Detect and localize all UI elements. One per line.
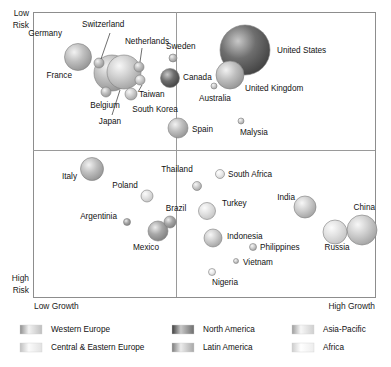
- bubble-united-kingdom[interactable]: [216, 61, 244, 89]
- bubble-label-canada: Canada: [183, 73, 212, 82]
- bubble-belgium[interactable]: [101, 87, 111, 97]
- bubble-label-turkey: Turkey: [222, 199, 248, 208]
- bubble-label-sweden: Sweden: [166, 42, 196, 51]
- bubble-poland[interactable]: [141, 190, 153, 202]
- bubble-taiwan[interactable]: [135, 75, 145, 85]
- legend-item-latin-america[interactable]: Latin America: [172, 343, 253, 352]
- bubble-south-korea[interactable]: [125, 88, 137, 100]
- bubble-russia[interactable]: [323, 220, 347, 244]
- legend-label-latin-america: Latin America: [203, 343, 253, 352]
- axis-label-high-risk-line2: Risk: [13, 285, 30, 295]
- bubble-label-south-korea: South Korea: [132, 105, 178, 114]
- bubble-label-belgium: Belgium: [90, 101, 120, 110]
- bubble-malysia[interactable]: [238, 118, 244, 124]
- leader-line-netherlands: [140, 48, 142, 62]
- bubble-label-argentinia: Argentinia: [80, 212, 117, 221]
- bubble-label-italy: Italy: [62, 172, 78, 181]
- bubble-label-nigeria: Nigeria: [212, 278, 238, 287]
- bubble-label-united-states: United States: [277, 46, 326, 55]
- bubble-label-japan: Japan: [99, 117, 122, 126]
- bubble-south-africa[interactable]: [216, 170, 225, 179]
- bubble-argentinia[interactable]: [124, 219, 131, 226]
- axis-label-low-growth: Low Growth: [34, 301, 79, 311]
- legend-label-north-america: North America: [203, 325, 255, 334]
- bubble-label-vietnam: Vietnam: [243, 258, 273, 267]
- bubble-label-switzerland: Switzerland: [82, 20, 125, 29]
- bubble-label-germany: Germany: [28, 29, 63, 38]
- legend-swatch-asia-pacific: [292, 325, 314, 334]
- legend-swatch-central-eastern-europe: [20, 343, 42, 352]
- legend-label-asia-pacific: Asia-Pacific: [323, 325, 366, 334]
- bubble-label-china: China: [354, 203, 376, 212]
- bubble-vietnam[interactable]: [234, 259, 239, 264]
- risk-growth-bubble-chart: GermanySwitzerlandFranceJapanNetherlands…: [0, 0, 391, 367]
- bubble-label-brazil: Brazil: [166, 204, 187, 213]
- bubble-label-thailand: Thailand: [161, 165, 193, 174]
- bubble-india[interactable]: [294, 196, 316, 218]
- bubble-label-philippines: Philippines: [260, 243, 300, 252]
- bubble-label-taiwan: Taiwan: [139, 90, 165, 99]
- bubble-philippines[interactable]: [250, 244, 257, 251]
- axis-label-low-risk-line1: Low: [14, 8, 30, 18]
- legend-item-north-america[interactable]: North America: [172, 325, 255, 334]
- axis-label-low-risk-line2: Risk: [13, 20, 30, 30]
- legend-swatch-north-america: [172, 325, 194, 334]
- bubble-australia[interactable]: [211, 83, 217, 89]
- bubble-spain[interactable]: [168, 118, 188, 138]
- bubble-sweden[interactable]: [169, 54, 177, 62]
- bubble-label-united-kingdom: United Kingdom: [245, 84, 303, 93]
- bubble-thailand[interactable]: [193, 182, 202, 191]
- legend-item-asia-pacific[interactable]: Asia-Pacific: [292, 325, 366, 334]
- bubble-germany[interactable]: [65, 44, 92, 71]
- legend-item-western-europe[interactable]: Western Europe: [20, 325, 110, 334]
- bubble-label-mexico: Mexico: [133, 243, 159, 252]
- legend-label-central-eastern-europe: Central & Eastern Europe: [51, 343, 145, 352]
- axis-label-high-risk-line1: High: [12, 273, 30, 283]
- legend-swatch-western-europe: [20, 325, 42, 334]
- legend-label-africa: Africa: [323, 343, 344, 352]
- bubble-nigeria[interactable]: [209, 269, 216, 276]
- bubble-label-spain: Spain: [192, 125, 213, 134]
- bubble-netherlands[interactable]: [134, 62, 144, 72]
- bubble-label-russia: Russia: [324, 243, 349, 252]
- legend-label-western-europe: Western Europe: [51, 325, 110, 334]
- bubble-label-australia: Australia: [199, 94, 231, 103]
- legend-swatch-latin-america: [172, 343, 194, 352]
- bubble-label-malysia: Malysia: [240, 128, 268, 137]
- bubble-indonesia[interactable]: [204, 229, 222, 247]
- bubble-label-south-africa: South Africa: [228, 170, 273, 179]
- bubble-italy[interactable]: [81, 158, 104, 181]
- bubble-brazil[interactable]: [164, 216, 176, 228]
- bubble-label-india: India: [277, 193, 295, 202]
- bubble-japan[interactable]: [107, 55, 141, 89]
- bubble-canada[interactable]: [161, 69, 180, 88]
- bubble-label-indonesia: Indonesia: [227, 232, 263, 241]
- bubble-label-france: France: [47, 71, 73, 80]
- bubble-chart-page: GermanySwitzerlandFranceJapanNetherlands…: [0, 0, 391, 367]
- legend-item-central-eastern-europe[interactable]: Central & Eastern Europe: [20, 343, 145, 352]
- axis-label-high-growth: High Growth: [328, 301, 375, 311]
- legend-item-africa[interactable]: Africa: [292, 343, 344, 352]
- bubble-turkey[interactable]: [199, 203, 216, 220]
- bubble-china[interactable]: [347, 215, 377, 245]
- chart-legend: Western EuropeCentral & Eastern EuropeNo…: [20, 325, 366, 352]
- bubble-label-poland: Poland: [112, 181, 138, 190]
- bubble-switzerland[interactable]: [94, 58, 104, 68]
- legend-swatch-africa: [292, 343, 314, 352]
- bubble-label-netherlands: Netherlands: [125, 37, 169, 46]
